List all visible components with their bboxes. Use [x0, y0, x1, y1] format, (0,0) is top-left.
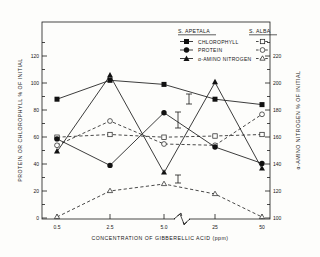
y-right-tick: 180 — [273, 107, 282, 113]
legend-label-amino-nitrogen: α-AMINO NITROGEN — [198, 56, 252, 62]
y-left-tick-labels: 120 100 80 60 40 20 0 — [31, 53, 40, 221]
filled-square-markers — [55, 78, 265, 107]
chart-canvas: 120 100 80 60 40 20 0 220 200 180 160 14… — [0, 0, 320, 257]
open-triangle-icon — [260, 56, 265, 60]
legend-group-apetala: S. APETALA — [178, 28, 210, 34]
series-apetala-amino-nitrogen — [54, 72, 265, 175]
series-alba-chlorophyll — [55, 132, 264, 139]
y-left-tick: 60 — [33, 134, 39, 140]
legend-label-chlorophyll: CHLOROPHYLL — [198, 39, 239, 45]
y-left-tick: 80 — [33, 107, 39, 113]
series-apetala-chlorophyll — [55, 78, 265, 107]
figure-container: 120 100 80 60 40 20 0 220 200 180 160 14… — [0, 0, 320, 257]
legend-row-protein: PROTEIN — [180, 47, 269, 53]
legend-row-chlorophyll: CHLOROPHYLL — [180, 39, 269, 45]
filled-circle-icon — [184, 47, 189, 52]
y-right-tick: 140 — [273, 161, 282, 167]
filled-circle-markers — [54, 110, 264, 168]
series-apetala-protein — [54, 110, 264, 168]
x-axis-break-icon — [174, 213, 190, 225]
x-tick: 0.5 — [54, 224, 61, 230]
open-triangle-markers — [54, 181, 264, 218]
y-left-tick: 120 — [31, 53, 40, 59]
y-right-axis-title: α-AMINO NITROGEN % OF INITIAL — [295, 71, 301, 170]
x-tick: 25 — [212, 224, 218, 230]
y-left-tick: 40 — [33, 161, 39, 167]
open-circle-icon — [260, 48, 265, 53]
filled-triangle-markers — [54, 72, 265, 175]
legend-row-amino-nitrogen: α-AMINO NITROGEN — [180, 56, 269, 62]
legend-group-alba: S. ALBA — [249, 28, 271, 34]
x-tick: 50 — [259, 224, 265, 230]
x-tick: 2.5 — [107, 224, 114, 230]
y-left-tick: 0 — [36, 215, 39, 221]
x-tick-labels: 0.5 2.5 5.0 25 50 — [54, 224, 265, 230]
filled-square-icon — [184, 39, 189, 44]
y-right-tick: 160 — [273, 134, 282, 140]
legend: S. APETALA S. ALBA CHLOROPHYLL PROTEIN α… — [178, 28, 277, 62]
y-right-axis-ticks — [265, 43, 270, 219]
y-left-tick: 20 — [33, 188, 39, 194]
open-square-icon — [260, 39, 264, 43]
y-right-tick: 200 — [273, 80, 282, 86]
x-tick: 5.0 — [161, 224, 168, 230]
x-axis-ticks — [57, 214, 262, 219]
y-right-tick: 100 — [273, 215, 282, 221]
y-right-tick-labels: 220 200 180 160 140 120 100 — [273, 53, 282, 221]
y-left-tick: 100 — [31, 80, 40, 86]
series-alba-amino-nitrogen — [54, 181, 264, 218]
y-left-axis-ticks — [42, 43, 47, 219]
y-right-tick: 120 — [273, 188, 282, 194]
y-right-tick: 220 — [273, 53, 282, 59]
legend-label-protein: PROTEIN — [198, 47, 222, 53]
x-axis-title: CONCENTRATION OF GIBBERELLIC ACID (ppm) — [91, 235, 228, 241]
y-left-axis-title: PROTEIN OR CHLOROPHYLL % OF INITIAL — [17, 58, 23, 181]
